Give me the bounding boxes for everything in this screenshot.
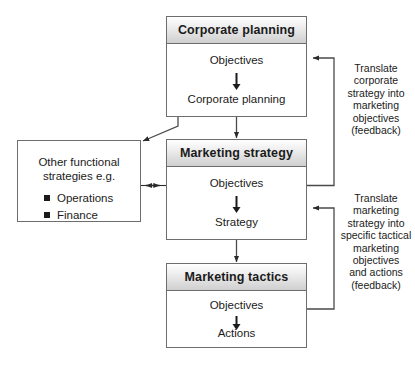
annotation-line: marketing	[338, 204, 414, 216]
stage-label-corporate-planning: Corporate planning	[167, 93, 306, 105]
square-bullet-icon	[44, 195, 50, 201]
stage-label-objectives: Objectives	[167, 177, 306, 189]
box-corporate-planning-body: Objectives Corporate planning	[167, 44, 306, 116]
annotation-line: specific tactical	[338, 229, 414, 241]
bullet-label-finance: Finance	[57, 209, 98, 221]
box-corporate-planning[interactable]: Corporate planning Objectives Corporate …	[166, 16, 307, 117]
box-other-functional-strategies[interactable]: Other functional strategies e.g. Operati…	[17, 140, 141, 222]
stage-label-actions: Actions	[167, 327, 306, 339]
bullet-label-operations: Operations	[57, 192, 113, 204]
box-marketing-strategy-body: Objectives Strategy	[167, 167, 306, 239]
annotation-line: objectives	[338, 254, 414, 266]
stage-label-objectives: Objectives	[167, 54, 306, 66]
other-functional-title: Other functional strategies e.g.	[18, 155, 140, 183]
annotation-line: strategy into	[338, 217, 414, 229]
down-arrow-icon	[232, 196, 241, 213]
box-corporate-planning-header: Corporate planning	[167, 17, 306, 44]
annotation-feedback-corporate: Translate corporate strategy into market…	[340, 62, 412, 136]
annotation-line: Translate	[338, 192, 414, 204]
stage-label-objectives: Objectives	[167, 299, 306, 311]
stage-label-strategy: Strategy	[167, 216, 306, 228]
annotation-line: and actions	[338, 266, 414, 278]
diagram-canvas: Corporate planning Objectives Corporate …	[0, 0, 415, 365]
annotation-line: Translate	[340, 62, 412, 74]
list-item: Operations	[44, 190, 140, 207]
list-item: Finance	[44, 207, 140, 224]
square-bullet-icon	[44, 212, 50, 218]
box-marketing-strategy[interactable]: Marketing strategy Objectives Strategy	[166, 139, 307, 240]
annotation-line: (feedback)	[340, 124, 412, 136]
box-marketing-strategy-header: Marketing strategy	[167, 140, 306, 167]
annotation-line: objectives	[340, 112, 412, 124]
feedback-loop-strategy-to-corporate	[307, 58, 334, 186]
arrow-corporate-to-other-functional	[143, 117, 178, 141]
annotation-line: strategy into	[340, 87, 412, 99]
annotation-line: corporate	[340, 74, 412, 86]
down-arrow-icon	[232, 73, 241, 90]
other-functional-title-line2: strategies e.g.	[18, 169, 140, 183]
box-marketing-tactics[interactable]: Marketing tactics Objectives Actions	[166, 263, 307, 348]
other-functional-title-line1: Other functional	[18, 155, 140, 169]
feedback-loop-tactics-to-strategy	[307, 208, 334, 309]
annotation-line: (feedback)	[338, 279, 414, 291]
annotation-line: marketing	[338, 242, 414, 254]
annotation-feedback-tactics: Translate marketing strategy into specif…	[338, 192, 414, 291]
box-marketing-tactics-body: Objectives Actions	[167, 291, 306, 347]
box-marketing-tactics-header: Marketing tactics	[167, 264, 306, 291]
other-functional-bullet-list: Operations Finance	[44, 190, 140, 224]
annotation-line: marketing	[340, 99, 412, 111]
